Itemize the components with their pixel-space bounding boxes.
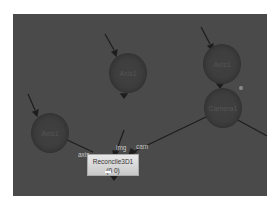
reconcile3d-subtitle: (0 0) — [88, 166, 138, 175]
reconcile3d-node[interactable]: Reconcile3D1 (0 0) — [87, 154, 139, 176]
node-dot — [239, 86, 243, 90]
input-label-cam: cam — [136, 143, 148, 150]
selection-marker — [105, 171, 111, 173]
input-label-img: img — [116, 144, 126, 151]
axis-node-left[interactable]: Axis1 — [31, 113, 69, 153]
node-label: Axis1 — [119, 70, 136, 77]
node-label: Axis1 — [213, 61, 230, 68]
camera-node[interactable]: Camera1 — [204, 88, 242, 128]
node-label: Camera1 — [209, 105, 238, 112]
reconcile3d-title: Reconcile3D1 — [88, 157, 138, 166]
node-label: Axis1 — [41, 130, 58, 137]
axis-node-top-right[interactable]: Axis1 — [203, 44, 241, 84]
axis-node-middle[interactable]: Axis1 — [109, 53, 147, 93]
node-graph-canvas[interactable]: Axis1 Axis1 Camera1 Axis1 axis img cam R… — [13, 14, 267, 196]
